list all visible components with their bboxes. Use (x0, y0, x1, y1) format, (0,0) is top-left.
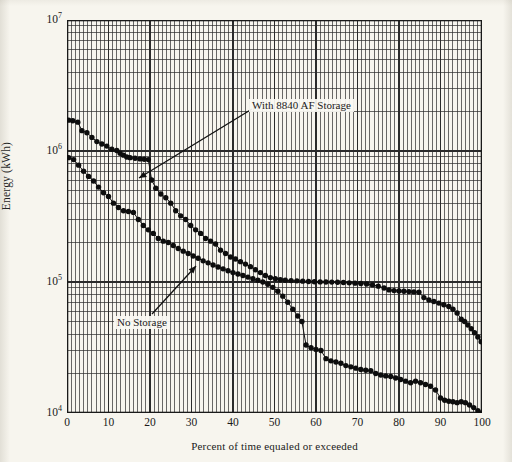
y-tick-exponent-6: 6 (58, 142, 62, 151)
data-layer (67, 20, 482, 413)
y-tick-exponent-4: 4 (58, 404, 62, 413)
y-axis-title: Energy (kWh) (0, 121, 12, 231)
annotation-no-storage: No Storage (114, 316, 170, 329)
series-with-storage (67, 117, 482, 344)
annotation-leader-line-1 (152, 266, 196, 314)
x-tick-label-40: 40 (213, 416, 253, 428)
x-tick-label-20: 20 (130, 416, 170, 428)
series-no-storage (67, 155, 482, 413)
x-tick-label-80: 80 (379, 416, 419, 428)
x-tick-label-50: 50 (255, 416, 295, 428)
x-axis-title: Percent of time equaled or exceeded (67, 440, 482, 452)
x-tick-label-60: 60 (296, 416, 336, 428)
y-axis-tick-labels: 107 106 105 104 (0, 0, 62, 462)
chart-figure: 107 106 105 104 Energy (kWh) 01020304050… (0, 0, 512, 462)
annotation-leader-line-0 (139, 109, 252, 178)
y-tick-exponent-7: 7 (58, 11, 62, 20)
x-tick-label-90: 90 (421, 416, 461, 428)
y-tick-exponent-5: 5 (58, 273, 62, 282)
x-tick-label-0: 0 (47, 416, 87, 428)
plot-area (67, 20, 482, 413)
y-tick-label-1e5: 105 (16, 276, 62, 288)
y-tick-label-1e6: 106 (16, 145, 62, 157)
x-tick-label-100: 100 (462, 416, 502, 428)
x-tick-label-30: 30 (172, 416, 212, 428)
x-tick-label-10: 10 (89, 416, 129, 428)
y-tick-label-1e7: 107 (16, 14, 62, 26)
x-tick-label-70: 70 (338, 416, 378, 428)
annotation-with-storage: With 8840 AF Storage (249, 99, 354, 112)
